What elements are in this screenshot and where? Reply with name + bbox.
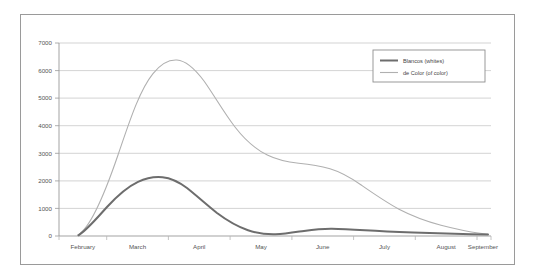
x-tick-label: March	[129, 243, 147, 250]
chart-figure: 7000 6000 5000 4000 3000 2000 1000 0	[0, 0, 534, 273]
x-tick-label: June	[316, 243, 330, 250]
x-tick-label: September	[468, 243, 498, 250]
y-tick-label: 0	[49, 232, 53, 239]
x-axis-ticks	[59, 236, 491, 240]
x-tick-label: April	[193, 243, 205, 250]
x-tick-label: July	[379, 243, 391, 250]
legend-label-blancos: Blancos (whites)	[403, 58, 444, 64]
line-chart-canvas: 7000 6000 5000 4000 3000 2000 1000 0	[21, 15, 514, 264]
y-tick-label: 6000	[38, 67, 52, 74]
y-axis-ticks	[55, 43, 59, 236]
chart-legend: Blancos (whites) de Color (of color)	[373, 50, 485, 82]
x-tick-label: May	[255, 243, 268, 250]
y-tick-label: 7000	[38, 39, 52, 46]
chart-outer-frame: 7000 6000 5000 4000 3000 2000 1000 0	[20, 14, 515, 265]
legend-label-de-color: de Color (of color)	[403, 70, 448, 76]
y-tick-label: 3000	[38, 150, 52, 157]
y-tick-label: 4000	[38, 122, 52, 129]
y-tick-label: 1000	[38, 205, 52, 212]
series-line-blancos	[79, 177, 489, 235]
y-axis-tick-labels: 7000 6000 5000 4000 3000 2000 1000 0	[38, 39, 52, 239]
legend-box	[373, 50, 485, 82]
y-tick-label: 2000	[38, 177, 52, 184]
x-tick-label: August	[437, 243, 457, 250]
y-tick-label: 5000	[38, 94, 52, 101]
x-axis-tick-labels: February March April May June July Augus…	[70, 243, 498, 250]
x-tick-label: February	[70, 243, 96, 250]
